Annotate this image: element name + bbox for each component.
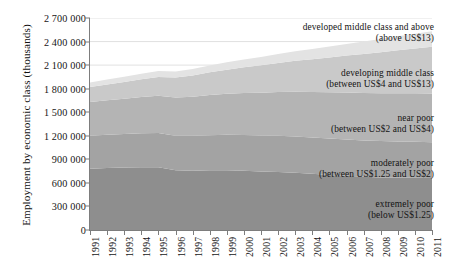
band-annotation: moderately poor(between US$1.25 and US$2… [319, 158, 434, 181]
x-axis-tick-mark [244, 231, 245, 235]
band-annotation-name: developing middle class [341, 68, 434, 78]
x-axis-tick-label: 2006 [347, 243, 358, 257]
y-axis-tick-label: 900 000 [0, 154, 86, 165]
x-axis-tick-mark [364, 231, 365, 235]
x-axis-tick-label: 2000 [244, 243, 255, 257]
x-axis-tick-mark [295, 231, 296, 235]
x-axis-tick-mark [329, 231, 330, 235]
band-annotation: extremely poor(below US$1.25) [368, 199, 434, 222]
x-axis-tick-label: 1992 [107, 243, 118, 257]
x-axis-tick-label: 2007 [364, 243, 375, 257]
x-axis-tick-mark [176, 231, 177, 235]
stacked-area-chart: Employment by economic class (thousands)… [0, 0, 452, 275]
band-annotation-range: (between US$4 and US$13) [326, 79, 434, 90]
y-axis-tick-label: 1 500 000 [0, 107, 86, 118]
x-axis-tick-label: 1999 [227, 243, 238, 257]
y-axis-tick-label: 300 000 [0, 201, 86, 212]
x-axis-tick-label: 2002 [278, 243, 289, 257]
x-axis-tick-mark [193, 231, 194, 235]
x-axis-tick-label: 1996 [176, 243, 187, 257]
x-axis-tick-mark [415, 231, 416, 235]
y-axis-tick-label: 600 000 [0, 177, 86, 188]
y-axis-tick-label: 0 [0, 225, 86, 236]
x-axis-tick-label: 2009 [398, 243, 409, 257]
x-axis-tick-mark [432, 231, 433, 235]
x-axis-tick-mark [227, 231, 228, 235]
x-axis-tick-mark [124, 231, 125, 235]
x-axis-tick-mark [107, 231, 108, 235]
y-axis-tick-label: 2 400 000 [0, 36, 86, 47]
band-annotation-range: (between US$2 and US$4) [331, 124, 434, 135]
x-axis-tick-mark [278, 231, 279, 235]
y-axis-tick-label: 1 800 000 [0, 83, 86, 94]
band-annotation-range: (below US$1.25) [368, 210, 434, 221]
x-axis-tick-label: 2011 [432, 243, 443, 257]
band-annotation: developing middle class(between US$4 and… [326, 68, 434, 91]
x-axis-tick-mark [141, 231, 142, 235]
x-axis-tick-label: 1997 [193, 243, 204, 257]
x-axis-tick-label: 1998 [210, 243, 221, 257]
band-annotation-name: extremely poor [376, 199, 434, 209]
x-axis-tick-label: 2001 [261, 243, 272, 257]
x-axis-tick-label: 1995 [158, 243, 169, 257]
band-annotation: near poor(between US$2 and US$4) [331, 113, 434, 136]
x-axis-tick-mark [90, 231, 91, 235]
band-annotation-name: near poor [397, 113, 434, 123]
x-axis-tick-mark [347, 231, 348, 235]
x-axis-tick-label: 1993 [124, 243, 135, 257]
x-axis-tick-label: 2003 [295, 243, 306, 257]
x-axis-tick-mark [381, 231, 382, 235]
x-axis-tick-label: 2008 [381, 243, 392, 257]
x-axis-tick-mark [312, 231, 313, 235]
x-axis-tick-label: 1994 [141, 243, 152, 257]
x-axis-tick-label: 1991 [90, 243, 101, 257]
x-axis-tick-label: 2005 [329, 243, 340, 257]
x-axis-tick-mark [158, 231, 159, 235]
band-annotation-range: (between US$1.25 and US$2) [319, 169, 434, 180]
band-annotation-name: developed middle class and above [303, 22, 434, 32]
x-axis-tick-label: 2004 [312, 243, 323, 257]
y-axis-tick-label: 2 700 000 [0, 13, 86, 24]
band-annotation-name: moderately poor [371, 158, 434, 168]
band-annotation: developed middle class and above(above U… [303, 22, 434, 45]
x-axis-tick-mark [210, 231, 211, 235]
y-axis-tick-label: 2 100 000 [0, 60, 86, 71]
y-axis-tick-label: 1 200 000 [0, 130, 86, 141]
band-annotation-range: (above US$13) [303, 33, 434, 44]
x-axis-tick-mark [398, 231, 399, 235]
x-axis-tick-mark [261, 231, 262, 235]
x-axis-tick-label: 2010 [415, 243, 426, 257]
